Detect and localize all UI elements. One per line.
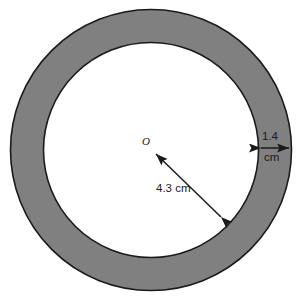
annulus-diagram: O 4.3 cm 1.4 cm — [0, 0, 307, 300]
annulus-graphic — [0, 0, 307, 300]
ring-thickness-unit-label: cm — [264, 152, 279, 164]
center-point-label: O — [142, 136, 150, 147]
ring-thickness-value-label: 1.4 — [262, 131, 278, 143]
inner-radius-label: 4.3 cm — [156, 183, 191, 195]
inner-circle — [44, 43, 259, 258]
